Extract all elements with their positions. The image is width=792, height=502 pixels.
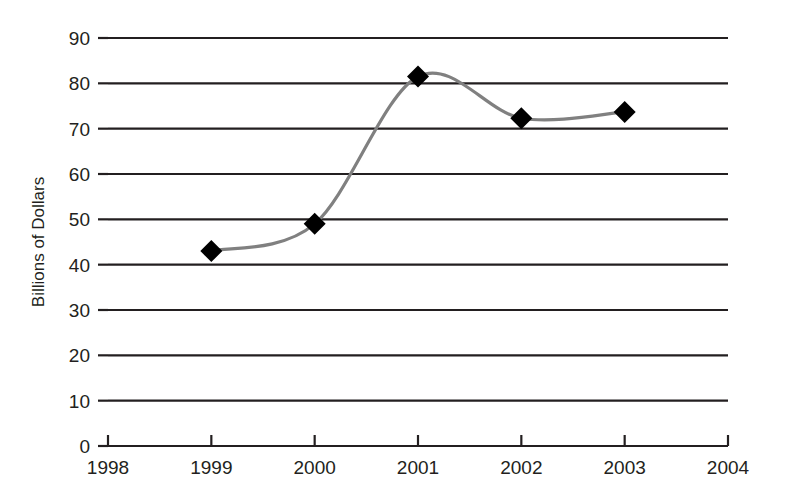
y-axis-title-label: Billions of Dollars	[29, 177, 48, 307]
x-axis-tick-label: 2001	[397, 457, 439, 478]
y-axis-tick-label: 10	[69, 391, 90, 412]
chart-background	[0, 0, 792, 502]
x-axis-tick-label: 1998	[87, 457, 129, 478]
y-axis-tick-label: 30	[69, 300, 90, 321]
x-axis-tick-label: 2000	[294, 457, 336, 478]
y-axis-tick-label: 50	[69, 209, 90, 230]
y-axis-tick-label: 80	[69, 73, 90, 94]
x-axis-tick-label: 1999	[190, 457, 232, 478]
x-axis-tick-label: 2003	[604, 457, 646, 478]
y-axis-tick-label: 40	[69, 255, 90, 276]
x-axis-tick-label: 2002	[500, 457, 542, 478]
y-axis-tick-label: 20	[69, 345, 90, 366]
y-axis-tick-label: 0	[79, 436, 90, 457]
y-axis-tick-label: 60	[69, 164, 90, 185]
y-axis-title: Billions of Dollars	[29, 177, 48, 307]
chart-canvas: 0102030405060708090 19981999200020012002…	[0, 0, 792, 502]
y-axis-tick-label: 70	[69, 119, 90, 140]
line-chart: 0102030405060708090 19981999200020012002…	[0, 0, 792, 502]
y-axis-tick-label: 90	[69, 28, 90, 49]
x-axis-tick-label: 2004	[707, 457, 750, 478]
